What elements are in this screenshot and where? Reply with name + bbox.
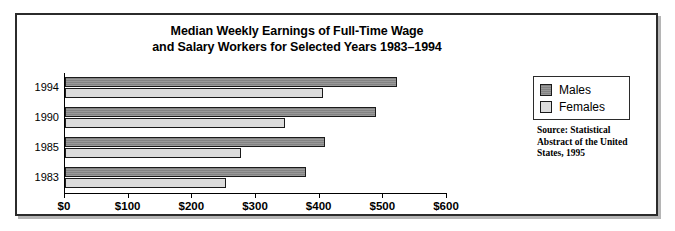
category-label: 1983 xyxy=(21,171,59,183)
x-tick-label: $300 xyxy=(225,200,285,212)
source-note-line-1: Source: Statistical xyxy=(537,125,647,137)
category-label: 1990 xyxy=(21,111,59,123)
bar-females-1985 xyxy=(65,148,241,158)
bar-females-1994 xyxy=(65,88,323,98)
chart-title-line-1: Median Weekly Earnings of Full-Time Wage xyxy=(57,23,537,39)
bar-group: 1983 xyxy=(65,163,464,193)
x-tick-label: $100 xyxy=(98,200,158,212)
bar-females-1990 xyxy=(65,118,285,128)
bar-males-1983 xyxy=(65,167,306,177)
bar-group: 1985 xyxy=(65,133,464,163)
legend-swatch-females xyxy=(540,101,552,113)
source-note-line-2: Abstract of the United xyxy=(537,137,647,149)
bar-group: 1994 xyxy=(65,73,464,103)
category-label: 1985 xyxy=(21,141,59,153)
x-tick xyxy=(191,193,192,198)
plot-area: 1994199019851983 $0$100$200$300$400$500$… xyxy=(64,73,464,193)
legend-label-females: Females xyxy=(559,100,605,114)
x-tick xyxy=(128,193,129,198)
source-note: Source: Statistical Abstract of the Unit… xyxy=(537,125,647,160)
x-tick-label: $0 xyxy=(34,200,94,212)
x-tick-label: $600 xyxy=(416,200,476,212)
legend-label-males: Males xyxy=(559,83,591,97)
chart-title-line-2: and Salary Workers for Selected Years 19… xyxy=(57,39,537,55)
bar-males-1985 xyxy=(65,137,325,147)
x-tick xyxy=(446,193,447,198)
legend-swatch-males xyxy=(540,84,552,96)
x-tick xyxy=(255,193,256,198)
chart-title: Median Weekly Earnings of Full-Time Wage… xyxy=(57,23,537,55)
bar-males-1990 xyxy=(65,107,376,117)
bar-females-1983 xyxy=(65,178,226,188)
legend-item-males: Males xyxy=(540,81,624,98)
x-tick-label: $500 xyxy=(352,200,412,212)
category-label: 1994 xyxy=(21,81,59,93)
x-tick xyxy=(382,193,383,198)
legend-item-females: Females xyxy=(540,98,624,115)
x-tick-label: $200 xyxy=(161,200,221,212)
source-note-line-3: States, 1995 xyxy=(537,148,647,160)
bar-males-1994 xyxy=(65,77,397,87)
x-tick xyxy=(64,193,65,198)
chart-legend: Males Females xyxy=(533,76,630,120)
x-tick-label: $400 xyxy=(289,200,349,212)
chart-frame: Median Weekly Earnings of Full-Time Wage… xyxy=(15,13,658,216)
bar-group: 1990 xyxy=(65,103,464,133)
x-tick xyxy=(319,193,320,198)
